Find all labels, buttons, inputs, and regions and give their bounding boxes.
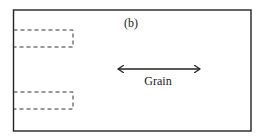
upper-dashed-region (14, 30, 74, 47)
grain-diagram: (b) Grain (0, 0, 258, 139)
grain-label: Grain (144, 74, 171, 88)
lower-dashed-region (14, 92, 74, 109)
panel-label: (b) (124, 16, 138, 30)
